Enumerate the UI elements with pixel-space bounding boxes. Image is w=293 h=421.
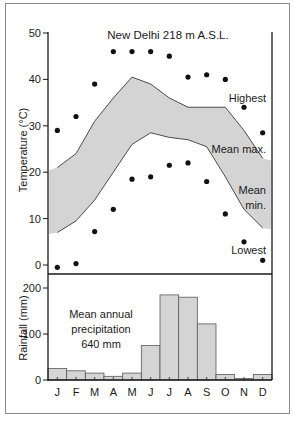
month-label: M <box>90 386 99 398</box>
temp-tick-label: 30 <box>29 120 41 132</box>
highest-point <box>167 54 172 59</box>
month-label: A <box>110 386 118 398</box>
label-lowest: Lowest <box>231 244 266 256</box>
highest-point <box>111 49 116 54</box>
lowest-point <box>92 229 97 234</box>
temp-axis-label: Temperature (°C) <box>17 108 29 192</box>
precip-label-1: Mean annual <box>69 308 133 320</box>
lowest-point <box>111 207 116 212</box>
temp-tick-label: 0 <box>35 259 41 271</box>
chart-title: New Delhi 218 m A.S.L. <box>107 29 228 41</box>
lowest-point <box>129 177 134 182</box>
lowest-point <box>260 258 265 263</box>
month-label: J <box>148 386 154 398</box>
rainfall-bar <box>179 297 198 380</box>
lowest-point <box>167 163 172 168</box>
month-label: S <box>203 386 210 398</box>
temp-tick-label: 10 <box>29 213 41 225</box>
temp-ticks: 50403020100 <box>29 27 48 271</box>
highest-point <box>55 128 60 133</box>
month-label: D <box>259 386 267 398</box>
label-mean-min-1: Mean <box>238 184 266 196</box>
highest-point <box>73 114 78 119</box>
rainfall-bar <box>197 324 216 380</box>
lowest-point <box>55 265 60 270</box>
temp-tick-label: 40 <box>29 73 41 85</box>
month-label: M <box>127 386 136 398</box>
lowest-point <box>73 261 78 266</box>
rain-axis-label: Rainfall (mm) <box>17 295 29 360</box>
lowest-point <box>204 179 209 184</box>
highest-point <box>92 81 97 86</box>
highest-point <box>241 105 246 110</box>
label-mean-min-2: min. <box>245 199 266 211</box>
month-label: O <box>221 386 230 398</box>
climate-chart: 50403020100 2001000 JFMAMJJASOND New Del… <box>0 0 293 421</box>
temp-tick-label: 20 <box>29 166 41 178</box>
rain-tick-label: 0 <box>35 374 41 386</box>
lowest-point <box>148 174 153 179</box>
temp-tick-label: 50 <box>29 27 41 39</box>
label-mean-max: Mean max. <box>212 143 266 155</box>
precip-label-2: precipitation <box>71 323 130 335</box>
month-label: J <box>167 386 173 398</box>
highest-point <box>148 49 153 54</box>
lowest-point <box>185 160 190 165</box>
highest-point <box>129 49 134 54</box>
rain-tick-label: 200 <box>23 282 41 294</box>
highest-point <box>223 77 228 82</box>
month-label: A <box>184 386 192 398</box>
rainfall-bar <box>141 346 160 381</box>
rainfall-bar <box>160 295 179 380</box>
precip-label-3: 640 mm <box>81 338 121 350</box>
highest-point <box>260 130 265 135</box>
lowest-point <box>223 211 228 216</box>
month-label: F <box>73 386 80 398</box>
highest-point <box>185 74 190 79</box>
month-label: N <box>240 386 248 398</box>
month-label: J <box>55 386 61 398</box>
label-highest: Highest <box>229 92 266 104</box>
highest-point <box>204 72 209 77</box>
